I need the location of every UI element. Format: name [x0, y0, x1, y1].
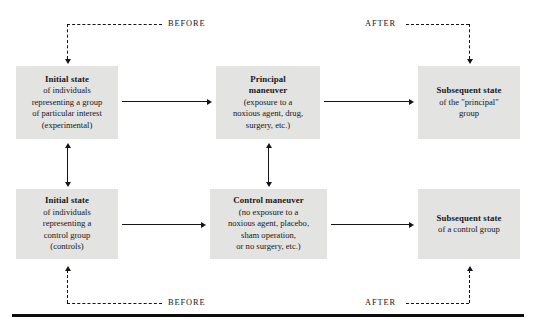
box-control-maneuver: Control maneuver (no exposure to a noxio… — [210, 189, 327, 259]
box-line-3: of particular interest — [32, 108, 102, 119]
box-line-2: noxious agent, placebo, — [228, 218, 309, 229]
arrow-control-maneuver-to-subsequent-line — [331, 224, 410, 225]
top-before-dashed-vertical — [67, 24, 68, 59]
box-line-1: of individuals — [43, 85, 91, 96]
box-line-2: representing a group — [32, 97, 103, 108]
box-initial-state-control: Initial state of individuals representin… — [16, 189, 118, 259]
bottom-after-label: AFTER — [365, 298, 396, 307]
arrow-control-initial-to-maneuver-line — [122, 224, 202, 225]
top-before-arrowhead — [65, 59, 71, 64]
box-principal-maneuver: Principal maneuver (exposure to a noxiou… — [216, 66, 320, 139]
link-principal-control-maneuver-line — [268, 146, 269, 184]
arrow-initial-to-principal-head — [207, 99, 212, 105]
arrow-control-maneuver-to-subsequent-head — [409, 222, 414, 228]
box-title-line-2: maneuver — [249, 85, 287, 96]
bottom-divider-rule — [12, 314, 524, 317]
study-design-diagram: BEFORE AFTER Initial state of individual… — [0, 0, 536, 327]
arrow-control-initial-to-maneuver-head — [201, 222, 206, 228]
box-title: Initial state — [45, 195, 89, 206]
link-experimental-control-line — [67, 146, 68, 184]
box-line-3: control group — [44, 230, 91, 241]
bottom-after-arrowhead — [467, 266, 473, 271]
box-initial-state-experimental: Initial state of individuals representin… — [16, 66, 118, 139]
box-line-4: or no surgery, etc.) — [236, 241, 300, 252]
box-line-3: sham operation, — [241, 230, 296, 241]
box-title: Subsequent state — [437, 213, 502, 224]
box-line-2: representing a — [43, 218, 91, 229]
bottom-before-dashed-horizontal — [67, 303, 162, 304]
top-before-dashed-horizontal — [67, 24, 162, 25]
box-line-2: noxious agent, drug, — [233, 108, 303, 119]
box-line-3: surgery, etc.) — [246, 120, 290, 131]
top-after-dashed-vertical — [469, 24, 470, 59]
arrow-principal-to-subsequent-head — [409, 99, 414, 105]
box-title: Initial state — [45, 74, 89, 85]
top-after-label: AFTER — [365, 19, 396, 28]
arrow-principal-to-subsequent-line — [324, 101, 410, 102]
bottom-before-dashed-vertical — [67, 270, 68, 303]
box-subsequent-state-control: Subsequent state of a control group — [418, 189, 520, 259]
box-line-1: of a control group — [438, 224, 500, 235]
link-principal-control-maneuver-head-up — [266, 143, 272, 148]
box-line-1: of individuals — [43, 207, 91, 218]
box-line-1: of the "principal" — [439, 97, 499, 108]
box-line-4: (experimental) — [42, 120, 93, 131]
top-before-label: BEFORE — [168, 19, 206, 28]
box-line-1: (no exposure to a — [239, 207, 298, 218]
box-subsequent-state-principal: Subsequent state of the "principal" grou… — [418, 66, 520, 139]
box-title: Control maneuver — [233, 195, 304, 206]
link-principal-control-maneuver-head-down — [266, 182, 272, 187]
arrow-initial-to-principal-line — [122, 101, 208, 102]
top-after-arrowhead — [467, 59, 473, 64]
link-experimental-control-head-up — [65, 143, 71, 148]
box-title: Subsequent state — [437, 85, 502, 96]
bottom-after-dashed-vertical — [469, 270, 470, 303]
box-line-2: group — [459, 108, 479, 119]
bottom-after-dashed-horizontal — [406, 303, 469, 304]
bottom-before-label: BEFORE — [168, 298, 206, 307]
box-title-line-1: Principal — [250, 74, 286, 85]
top-after-dashed-horizontal — [406, 24, 469, 25]
link-experimental-control-head-down — [65, 182, 71, 187]
box-line-1: (exposure to a — [244, 97, 293, 108]
box-line-4: (controls) — [50, 241, 83, 252]
